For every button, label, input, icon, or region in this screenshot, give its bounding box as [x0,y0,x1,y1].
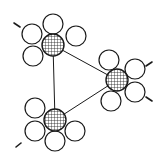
satellite-circle [125,82,145,102]
satellite-circle [22,24,42,44]
arrow-icon [14,23,20,27]
satellite-circle [125,59,145,79]
arrow-icon [146,62,152,66]
hub-circle-right [106,69,128,91]
satellite-circle [66,26,86,46]
hub-circle-bottom [44,109,66,131]
satellite-circle [25,98,45,118]
satellite-circle [101,91,121,111]
diagram-canvas: Three-cluster molecular arrangement [0,0,166,160]
hub-circle-top [42,34,64,56]
satellite-circle [25,121,45,141]
satellite-circle [65,121,85,141]
satellite-circle [23,46,43,66]
satellite-circle [99,50,119,70]
hatched-hub-circles [42,34,128,131]
arrow-icon [146,97,152,101]
satellite-circle [43,14,63,34]
satellite-circle [45,131,65,151]
arrow-icon [16,143,21,147]
cluster-diagram [0,0,166,160]
